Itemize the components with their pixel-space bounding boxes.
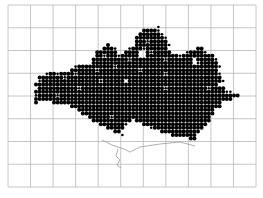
dot-large xyxy=(117,104,121,108)
dot-small xyxy=(103,55,106,58)
dot-large xyxy=(167,54,171,58)
dot-large xyxy=(210,93,214,97)
dot-large xyxy=(142,93,146,97)
dot-large xyxy=(174,129,178,133)
dot-large xyxy=(92,101,96,105)
dot-large xyxy=(174,115,178,119)
dot-large xyxy=(164,126,168,130)
dot-large xyxy=(131,75,135,79)
dot-large xyxy=(138,101,142,105)
dot-large xyxy=(110,83,114,87)
dot-large xyxy=(185,61,189,65)
dot-large xyxy=(203,101,207,105)
dot-large xyxy=(117,119,121,123)
dot-large xyxy=(124,68,128,72)
dot-large xyxy=(110,111,114,115)
dot-large xyxy=(185,65,189,69)
dot-large xyxy=(174,126,178,130)
dot-small xyxy=(74,73,77,76)
dot-large xyxy=(200,101,204,105)
dot-large xyxy=(45,90,49,94)
dot-large xyxy=(88,83,92,87)
dot-large xyxy=(189,90,193,94)
dot-large xyxy=(99,97,103,101)
dot-large xyxy=(34,83,38,87)
dot-large xyxy=(156,97,160,101)
dot-large xyxy=(149,122,153,126)
dot-large xyxy=(99,75,103,79)
dot-large xyxy=(106,50,110,54)
dot-large xyxy=(34,101,38,105)
dot-large xyxy=(185,97,189,101)
dot-large xyxy=(128,90,132,94)
dot-large xyxy=(174,133,178,137)
dot-large xyxy=(149,47,153,51)
dot-large xyxy=(192,68,196,72)
dot-large xyxy=(182,97,186,101)
dot-large xyxy=(142,75,146,79)
dot-large xyxy=(77,72,81,76)
dot-large xyxy=(160,108,164,112)
dot-large xyxy=(70,75,74,79)
dot-large xyxy=(153,111,157,115)
dot-large xyxy=(117,75,121,79)
dot-large xyxy=(142,43,146,47)
dot-large xyxy=(146,65,150,69)
dot-large xyxy=(160,54,164,58)
dot-large xyxy=(178,104,182,108)
dot-large xyxy=(106,61,110,65)
dot-large xyxy=(117,61,121,65)
dot-large xyxy=(110,65,114,69)
dot-large xyxy=(99,93,103,97)
dot-large xyxy=(178,75,182,79)
dot-large xyxy=(160,68,164,72)
dot-large xyxy=(95,83,99,87)
dot-large xyxy=(110,61,114,65)
dot-large xyxy=(185,122,189,126)
dot-large xyxy=(189,115,193,119)
dot-large xyxy=(120,79,124,83)
dot-large xyxy=(149,111,153,115)
dot-large xyxy=(113,119,117,123)
dot-large xyxy=(117,111,121,115)
dot-large xyxy=(99,50,103,54)
dot-large xyxy=(203,104,207,108)
dot-large xyxy=(189,83,193,87)
dot-large xyxy=(214,61,218,65)
dot-large xyxy=(171,90,175,94)
dot-large xyxy=(156,50,160,54)
dot-large xyxy=(182,93,186,97)
dot-large xyxy=(66,72,70,76)
dot-small xyxy=(222,80,225,83)
dot-small xyxy=(168,44,171,47)
dot-large xyxy=(167,122,171,126)
dot-large xyxy=(149,108,153,112)
dot-large xyxy=(153,57,157,61)
dot-large xyxy=(192,101,196,105)
dot-large xyxy=(182,75,186,79)
dot-large xyxy=(207,97,211,101)
dot-small xyxy=(110,116,113,119)
dot-large xyxy=(92,97,96,101)
dot-large xyxy=(167,129,171,133)
dot-large xyxy=(135,108,139,112)
dot-large xyxy=(146,86,150,90)
dot-large xyxy=(120,126,124,130)
dot-large xyxy=(66,97,70,101)
dot-large xyxy=(117,79,121,83)
dot-large xyxy=(182,126,186,130)
dot-large xyxy=(149,79,153,83)
dot-large xyxy=(149,36,153,40)
dot-large xyxy=(113,90,117,94)
dot-large xyxy=(146,72,150,76)
dot-large xyxy=(210,111,214,115)
dot-large xyxy=(135,47,139,51)
dot-large xyxy=(185,93,189,97)
dot-large xyxy=(142,61,146,65)
dot-large xyxy=(153,79,157,83)
dot-large xyxy=(81,68,85,72)
dot-large xyxy=(92,72,96,76)
dot-large xyxy=(142,97,146,101)
dot-large xyxy=(81,111,85,115)
dot-large xyxy=(182,79,186,83)
